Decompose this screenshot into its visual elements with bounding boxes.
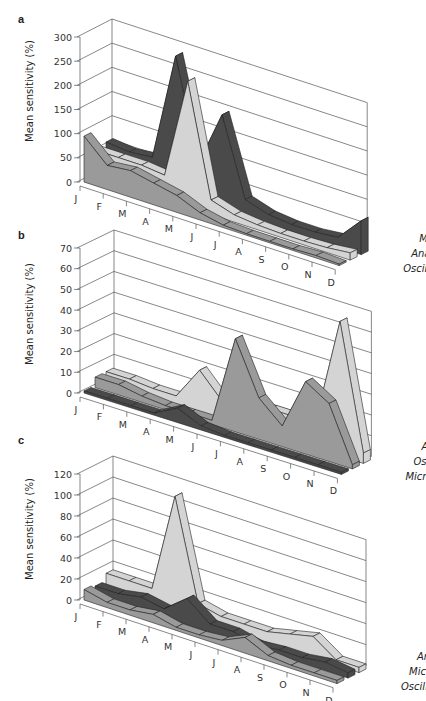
- y-tick-label: 50: [60, 284, 72, 295]
- chart-c: 020406080100120AnabaenaMicrocystisOscill…: [0, 430, 426, 701]
- x-tick-label: M: [119, 419, 127, 430]
- x-tick-label: J: [212, 657, 216, 668]
- y-tick-label: 30: [60, 325, 72, 336]
- y-tick-label: 120: [54, 469, 72, 480]
- x-tick-label: A: [234, 664, 241, 675]
- y-tick-label: 0: [66, 388, 72, 399]
- x-tick-label: D: [325, 695, 332, 701]
- x-tick-label: M: [118, 208, 126, 219]
- x-tick-label: J: [74, 193, 78, 204]
- y-tick-label: 150: [54, 104, 72, 115]
- x-tick-label: N: [302, 687, 309, 698]
- x-tick-label: F: [96, 619, 101, 630]
- y-tick-label: 200: [54, 80, 72, 91]
- y-tick-label: 100: [54, 490, 72, 501]
- legend-oscillatoria: Oscillatoria: [401, 681, 426, 692]
- y-tick-label: 60: [60, 532, 72, 543]
- y-tick-label: 300: [54, 32, 72, 43]
- y-tick-label: 20: [60, 574, 72, 585]
- y-tick-label: 0: [66, 177, 72, 188]
- panel-b: b Mean sensitivity (%) 010203040506070An…: [0, 225, 426, 430]
- chart-a: 050100150200250300MicrocystisAnabaenaOsc…: [0, 0, 426, 225]
- x-tick-label: S: [257, 672, 263, 683]
- panel-a: a Mean sensitivity (%) 05010015020025030…: [0, 0, 426, 225]
- legend-anabaena: Anabaena: [416, 651, 426, 662]
- x-tick-label: F: [96, 201, 101, 212]
- y-tick-label: 50: [60, 152, 72, 163]
- x-tick-label: M: [118, 626, 126, 637]
- y-tick-label: 70: [60, 243, 72, 254]
- x-tick-label: F: [97, 411, 102, 422]
- y-tick-label: 40: [60, 553, 72, 564]
- x-tick-label: A: [142, 634, 149, 645]
- y-tick-label: 60: [60, 263, 72, 274]
- x-tick-label: J: [189, 649, 193, 660]
- chart-b: 010203040506070AnabaenaOscillatoriaMicro…: [0, 225, 426, 430]
- legend-microcystis: Microcystis: [409, 666, 426, 677]
- x-tick-label: J: [74, 404, 78, 415]
- y-tick-label: 80: [60, 511, 72, 522]
- series-microcystis: [95, 583, 355, 679]
- y-tick-label: 20: [60, 346, 72, 357]
- x-tick-label: M: [164, 641, 172, 652]
- y-tick-label: 250: [54, 56, 72, 67]
- panel-c: c Mean sensitivity (%) 020406080100120An…: [0, 430, 426, 701]
- x-tick-label: O: [279, 679, 286, 690]
- y-tick-label: 10: [60, 367, 72, 378]
- y-tick-label: 0: [66, 595, 72, 606]
- y-tick-label: 100: [54, 128, 72, 139]
- x-tick-label: J: [74, 611, 78, 622]
- y-tick-label: 40: [60, 305, 72, 316]
